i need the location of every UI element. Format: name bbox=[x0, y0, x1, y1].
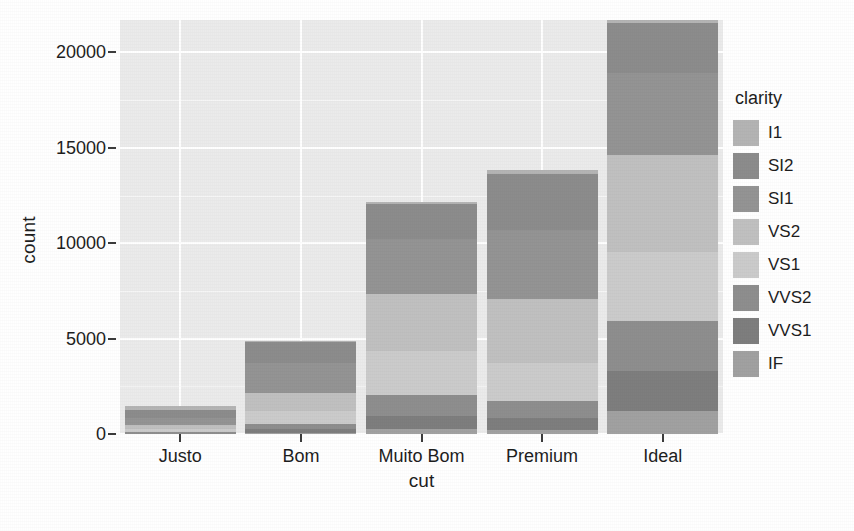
stacked-bar-premium[interactable] bbox=[487, 170, 598, 434]
plot-panel bbox=[120, 20, 723, 434]
y-tick-mark bbox=[108, 338, 116, 340]
legend: clarity I1SI2SI1VS2VS1VVS2VVS1IF bbox=[733, 88, 851, 380]
y-tick-mark bbox=[108, 433, 116, 435]
legend-swatch-vs2 bbox=[733, 219, 759, 245]
legend-label-vvs1: VVS1 bbox=[768, 321, 811, 341]
stacked-bar-ideal[interactable] bbox=[607, 20, 718, 434]
legend-item-list: I1SI2SI1VS2VS1VVS2VVS1IF bbox=[733, 116, 851, 380]
y-tick-mark bbox=[108, 51, 116, 53]
bar-segment-vs1[interactable] bbox=[607, 252, 718, 321]
legend-label-if: IF bbox=[768, 354, 783, 374]
bar-segment-vvs1[interactable] bbox=[366, 416, 477, 429]
legend-swatch-vvs1 bbox=[733, 318, 759, 344]
stacked-bar-muito-bom[interactable] bbox=[366, 202, 477, 434]
bar-segment-vs2[interactable] bbox=[487, 299, 598, 363]
x-tick-label-muito-bom: Muito Bom bbox=[378, 446, 464, 467]
bar-segment-vs2[interactable] bbox=[366, 294, 477, 351]
bar-segment-si2[interactable] bbox=[366, 204, 477, 240]
legend-item-vs1[interactable]: VS1 bbox=[733, 248, 851, 281]
legend-label-vs1: VS1 bbox=[768, 255, 800, 275]
bar-segment-if[interactable] bbox=[607, 411, 718, 434]
y-tick-label: 5000 bbox=[66, 328, 106, 349]
x-tick-label-premium: Premium bbox=[506, 446, 578, 467]
x-tick-label-bom: Bom bbox=[282, 446, 319, 467]
x-tick-mark bbox=[179, 434, 181, 442]
bar-segment-si2[interactable] bbox=[245, 342, 356, 363]
x-tick-mark bbox=[662, 434, 664, 442]
legend-label-vvs2: VVS2 bbox=[768, 288, 811, 308]
y-tick-label: 15000 bbox=[56, 137, 106, 158]
legend-title: clarity bbox=[735, 88, 851, 109]
legend-item-vvs1[interactable]: VVS1 bbox=[733, 314, 851, 347]
legend-swatch-i1 bbox=[733, 120, 759, 146]
legend-item-i1[interactable]: I1 bbox=[733, 116, 851, 149]
bar-segment-si1[interactable] bbox=[125, 418, 236, 425]
bar-segment-vvs2[interactable] bbox=[487, 401, 598, 418]
y-tick-label: 20000 bbox=[56, 42, 106, 63]
legend-label-i1: I1 bbox=[768, 123, 782, 143]
x-tick-label-justo: Justo bbox=[159, 446, 202, 467]
gridline-vertical bbox=[179, 20, 181, 434]
bar-segment-si2[interactable] bbox=[487, 174, 598, 231]
legend-swatch-si1 bbox=[733, 186, 759, 212]
bar-segment-vs1[interactable] bbox=[487, 363, 598, 401]
y-tick-mark bbox=[108, 242, 116, 244]
y-tick-mark bbox=[108, 147, 116, 149]
bar-segment-si1[interactable] bbox=[366, 239, 477, 294]
legend-swatch-vvs2 bbox=[733, 285, 759, 311]
legend-swatch-vs1 bbox=[733, 252, 759, 278]
legend-item-vvs2[interactable]: VVS2 bbox=[733, 281, 851, 314]
legend-label-si2: SI2 bbox=[768, 156, 794, 176]
bar-segment-si2[interactable] bbox=[607, 23, 718, 73]
x-tick-mark bbox=[421, 434, 423, 442]
x-tick-mark bbox=[541, 434, 543, 442]
bar-segment-vvs2[interactable] bbox=[607, 321, 718, 371]
legend-swatch-si2 bbox=[733, 153, 759, 179]
bar-segment-si1[interactable] bbox=[487, 230, 598, 298]
bar-segment-vs2[interactable] bbox=[245, 393, 356, 412]
y-axis-title: count bbox=[18, 180, 40, 300]
bar-segment-vvs1[interactable] bbox=[487, 418, 598, 430]
bar-segment-vs1[interactable] bbox=[366, 351, 477, 395]
legend-item-vs2[interactable]: VS2 bbox=[733, 215, 851, 248]
legend-item-si1[interactable]: SI1 bbox=[733, 182, 851, 215]
bar-segment-si1[interactable] bbox=[245, 363, 356, 393]
stacked-bar-justo[interactable] bbox=[125, 406, 236, 434]
x-tick-mark bbox=[300, 434, 302, 442]
x-tick-label-ideal: Ideal bbox=[643, 446, 682, 467]
bar-segment-si2[interactable] bbox=[125, 410, 236, 418]
chart-figure: 05000100001500020000 count JustoBomMuito… bbox=[0, 0, 854, 531]
y-tick-label: 0 bbox=[96, 424, 106, 445]
legend-item-if[interactable]: IF bbox=[733, 347, 851, 380]
bar-segment-vvs1[interactable] bbox=[607, 371, 718, 410]
legend-label-vs2: VS2 bbox=[768, 222, 800, 242]
legend-item-si2[interactable]: SI2 bbox=[733, 149, 851, 182]
x-axis-title: cut bbox=[120, 470, 723, 492]
bar-segment-vs1[interactable] bbox=[245, 411, 356, 423]
legend-label-si1: SI1 bbox=[768, 189, 794, 209]
stacked-bar-bom[interactable] bbox=[245, 341, 356, 434]
bar-segment-vs2[interactable] bbox=[607, 155, 718, 252]
bar-segment-si1[interactable] bbox=[607, 73, 718, 155]
y-tick-label: 10000 bbox=[56, 233, 106, 254]
bar-segment-vvs2[interactable] bbox=[366, 395, 477, 416]
legend-swatch-if bbox=[733, 351, 759, 377]
